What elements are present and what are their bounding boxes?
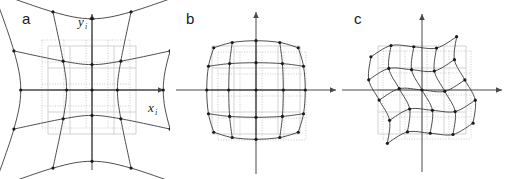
grid-node: [119, 60, 122, 63]
grid-node: [90, 160, 93, 163]
grid-node: [398, 87, 401, 90]
grid-node: [455, 35, 458, 38]
grid-node: [129, 167, 132, 170]
grid-node: [412, 45, 415, 48]
grid-node: [281, 115, 284, 118]
reference-grid-dotted-b: [218, 52, 306, 140]
grid-node: [471, 122, 474, 125]
x-axis-label: xi: [147, 100, 157, 117]
grid-node: [19, 88, 22, 91]
axes-c: [342, 14, 502, 172]
reference-grid-dotted-c: [383, 51, 471, 139]
panel-label-c: c: [354, 10, 362, 27]
grid-node: [51, 10, 54, 13]
grid-node: [254, 116, 257, 119]
grid-node: [302, 65, 305, 68]
grid-node: [410, 68, 413, 71]
grid-node: [254, 138, 257, 141]
svg-text:i: i: [155, 108, 157, 117]
grid-node: [90, 114, 93, 117]
grid-node: [228, 62, 231, 65]
y-axis-arrowhead-c: [419, 14, 425, 20]
svg-text:y: y: [76, 14, 84, 29]
grid-node: [302, 112, 305, 115]
grid-node: [116, 88, 119, 91]
grid-node: [254, 39, 257, 42]
grid-node: [12, 49, 15, 52]
grid-node: [474, 99, 477, 102]
svg-text:x: x: [147, 100, 154, 115]
grid-node: [435, 46, 438, 49]
panel-container-c: c: [342, 0, 508, 179]
grid-node: [207, 65, 210, 68]
panel-container-b: b: [170, 0, 342, 179]
grid-node: [205, 88, 208, 91]
panel-label-b: b: [186, 10, 194, 27]
grid-node: [119, 117, 122, 120]
panel-label-a: a: [22, 10, 31, 27]
grid-node: [212, 46, 215, 49]
grid-node: [90, 17, 93, 20]
grid-node: [254, 61, 257, 64]
grid-node: [278, 41, 281, 44]
grid-node: [443, 90, 446, 93]
grid-node: [231, 136, 234, 139]
grid-node: [278, 136, 281, 139]
grid-node: [62, 117, 65, 120]
grid-node: [228, 115, 231, 118]
grid-node: [406, 130, 409, 133]
grid-node: [12, 127, 15, 130]
grid-node: [65, 88, 68, 91]
grid-node: [51, 167, 54, 170]
grid-node: [387, 67, 390, 70]
grid-node: [227, 88, 230, 91]
panel-c: c: [342, 0, 508, 179]
y-axis-label: yi: [76, 14, 87, 31]
grid-node: [162, 88, 165, 91]
grid-node: [453, 58, 456, 61]
grid-node: [297, 131, 300, 134]
grid-node: [454, 110, 457, 113]
grid-node: [389, 44, 392, 47]
grid-node: [281, 62, 284, 65]
grid-node: [429, 132, 432, 135]
grid-node: [451, 133, 454, 136]
grid-node: [231, 41, 234, 44]
grid-node: [367, 78, 370, 81]
svg-text:i: i: [85, 22, 87, 31]
grid-node: [378, 98, 381, 101]
grid-node: [304, 88, 307, 91]
grid-node: [431, 109, 434, 112]
grid-node: [62, 60, 65, 63]
grid-node: [90, 88, 93, 91]
x-axis-arrowhead-b: [330, 87, 336, 93]
grid-node: [388, 119, 391, 122]
x-axis-arrowhead-c: [496, 87, 502, 93]
grid-node: [282, 88, 285, 91]
grid-node: [90, 63, 93, 66]
grid-node: [420, 88, 423, 91]
grid-node: [408, 107, 411, 110]
panel-b: b: [170, 0, 342, 179]
grid-node: [297, 46, 300, 49]
panel-a: ayixi: [0, 0, 170, 179]
grid-node: [212, 131, 215, 134]
panel-container-a: ayixi: [0, 0, 170, 179]
grid-node: [369, 55, 372, 58]
grid-node: [254, 88, 257, 91]
reference-grid-dotted-a: [42, 40, 130, 128]
distortion-figure: ayixibc: [0, 0, 508, 179]
grid-node: [386, 142, 389, 145]
grid-node: [129, 10, 132, 13]
y-axis-arrowhead-b: [253, 12, 259, 18]
grid-node: [207, 112, 210, 115]
axes-a: [22, 14, 164, 170]
grid-node: [463, 78, 466, 81]
grid-node: [433, 69, 436, 72]
